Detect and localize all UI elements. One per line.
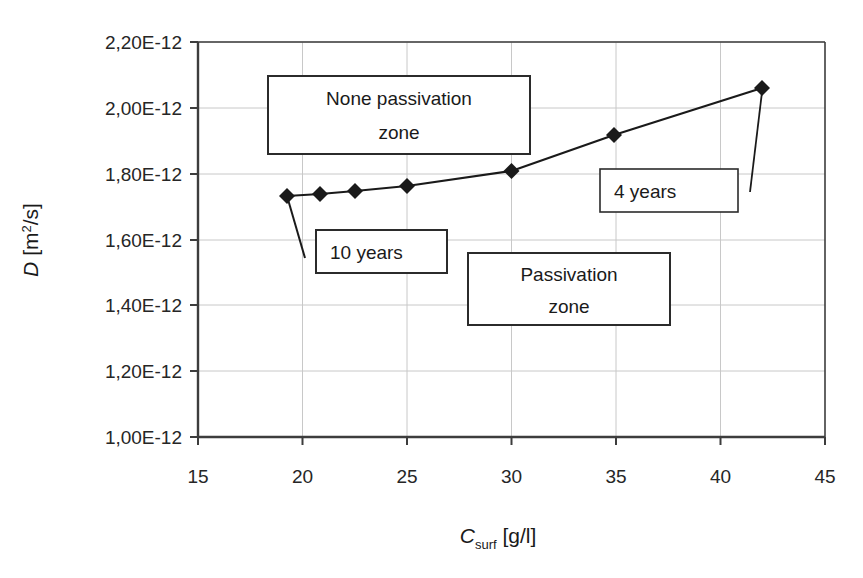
chart-figure: 2,20E-12 2,00E-12 1,80E-12 1,60E-12 1,40…: [0, 0, 863, 578]
x-axis-title-symbol: C: [460, 524, 476, 547]
y-axis-title: D [m2/s]: [19, 203, 42, 277]
x-tick-marks: [198, 437, 825, 445]
annotation-passivation-zone[interactable]: Passivation zone: [468, 253, 670, 325]
y-tick-label-5: 1,20E-12: [105, 361, 182, 382]
y-axis-title-superscript: 2: [19, 225, 34, 232]
y-axis-title-symbol: D: [19, 262, 42, 277]
x-tick-label-1: 20: [292, 466, 313, 487]
x-tick-label-3: 30: [501, 466, 522, 487]
y-tick-label-1: 2,00E-12: [105, 98, 182, 119]
x-axis-title: Csurf [g/l]: [460, 524, 537, 552]
annotation-none-passivation-zone[interactable]: None passivation zone: [268, 76, 530, 154]
y-tick-label-2: 1,80E-12: [105, 164, 182, 185]
passivation-zone-label-line2: zone: [548, 296, 589, 317]
x-axis-title-subscript: surf: [475, 537, 497, 552]
passivation-zone-label-line1: Passivation: [520, 264, 617, 285]
annotation-ten-years[interactable]: 10 years: [316, 230, 447, 273]
x-tick-label-6: 45: [814, 466, 835, 487]
y-tick-labels: 2,20E-12 2,00E-12 1,80E-12 1,60E-12 1,40…: [105, 32, 182, 448]
annotation-four-years[interactable]: 4 years: [600, 169, 738, 212]
x-axis-title-unit: [g/l]: [497, 524, 537, 547]
y-tick-label-0: 2,20E-12: [105, 32, 182, 53]
x-tick-label-2: 25: [396, 466, 417, 487]
svg-text:D [m2/s]: D [m2/s]: [19, 203, 42, 277]
ten-years-label: 10 years: [330, 242, 403, 263]
none-passivation-zone-label-line2: zone: [378, 122, 419, 143]
y-axis-title-unit-open: [m: [19, 233, 42, 262]
x-tick-label-0: 15: [187, 466, 208, 487]
x-tick-labels: 15 20 25 30 35 40 45: [187, 466, 835, 487]
y-tick-label-6: 1,00E-12: [105, 427, 182, 448]
four-years-label: 4 years: [614, 181, 676, 202]
none-passivation-zone-label-line1: None passivation: [326, 88, 472, 109]
x-tick-label-5: 40: [710, 466, 731, 487]
diffusion-vs-surface-concentration-chart: 2,20E-12 2,00E-12 1,80E-12 1,60E-12 1,40…: [0, 0, 863, 578]
y-axis-title-unit-close: /s]: [19, 203, 42, 225]
x-tick-label-4: 35: [605, 466, 626, 487]
y-tick-label-3: 1,60E-12: [105, 230, 182, 251]
y-tick-label-4: 1,40E-12: [105, 295, 182, 316]
